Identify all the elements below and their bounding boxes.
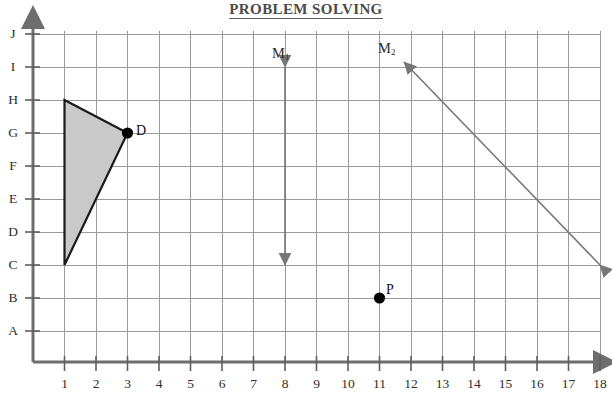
- x-tick-label-16: 16: [526, 377, 548, 391]
- m2-label-sub: 2: [391, 47, 396, 57]
- y-tick-label-e: E: [4, 192, 22, 206]
- x-tick-label-1: 1: [54, 377, 76, 391]
- gridlines: [33, 31, 600, 362]
- point-d-marker: [122, 127, 133, 138]
- x-tick-label-13: 13: [432, 377, 454, 391]
- x-tick-label-3: 3: [117, 377, 139, 391]
- point-p-label: P: [386, 283, 394, 297]
- y-tick-label-c: C: [4, 258, 22, 272]
- x-tick-label-8: 8: [274, 377, 296, 391]
- x-tick-label-7: 7: [243, 377, 265, 391]
- x-tick-label-10: 10: [337, 377, 359, 391]
- x-tick-label-17: 17: [558, 377, 580, 391]
- x-tick-label-9: 9: [306, 377, 328, 391]
- x-tick-label-15: 15: [495, 377, 517, 391]
- point-p-marker: [374, 292, 385, 303]
- y-tick-label-i: I: [4, 60, 22, 74]
- m2-label: M2: [378, 41, 395, 56]
- x-tick-label-5: 5: [180, 377, 202, 391]
- m2-arrow: [404, 62, 600, 265]
- m1-label-sub: 1: [285, 52, 290, 62]
- x-tick-label-18: 18: [589, 377, 611, 391]
- problem-solving-worksheet: PROBLEM SOLVING: [0, 0, 612, 402]
- y-tick-label-g: G: [4, 126, 22, 140]
- y-tick-label-h: H: [4, 93, 22, 107]
- x-tick-label-11: 11: [369, 377, 391, 391]
- x-tick-label-2: 2: [85, 377, 107, 391]
- x-tick-label-4: 4: [148, 377, 170, 391]
- y-tick-label-f: F: [4, 159, 22, 173]
- x-tick-label-14: 14: [463, 377, 485, 391]
- x-tick-label-12: 12: [400, 377, 422, 391]
- axes: [33, 26, 596, 362]
- y-tick-label-d: D: [4, 225, 22, 239]
- y-tick-label-a: A: [4, 324, 22, 338]
- y-tick-label-j: J: [4, 27, 22, 41]
- y-tick-label-b: B: [4, 291, 22, 305]
- m1-label-base: M: [272, 45, 285, 61]
- point-d-label: D: [136, 124, 146, 138]
- m1-label: M1: [272, 46, 289, 61]
- m2-label-base: M: [378, 40, 391, 56]
- x-tick-label-6: 6: [211, 377, 233, 391]
- graph-svg: [0, 0, 612, 402]
- axis-ticks: [25, 34, 600, 371]
- coordinate-grid-figure: J I H G F E D C B A 1 2 3 4 5 6 7 8 9 10…: [0, 0, 612, 402]
